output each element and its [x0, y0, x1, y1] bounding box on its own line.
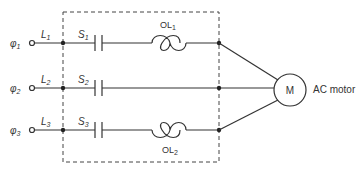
svg-text:S2: S2: [78, 74, 89, 86]
terminal-phase-2: [30, 86, 35, 91]
phase-3-line: φ3 L3 S3 OL2: [10, 100, 278, 156]
svg-text:φ2: φ2: [10, 83, 21, 95]
overload-ol2: [152, 123, 186, 138]
svg-text:OL1: OL1: [160, 20, 176, 31]
overload-ol1: [152, 36, 186, 51]
svg-text:L3: L3: [41, 116, 51, 128]
terminal-phase-3: [30, 128, 35, 133]
svg-text:φ1: φ1: [10, 38, 21, 50]
terminal-phase-1: [30, 41, 35, 46]
circuit-diagram: φ1 L1 S1 OL1 φ2 L2 S2 φ3 L3 S3: [0, 0, 363, 175]
svg-text:AC motor: AC motor: [313, 84, 356, 95]
node: [61, 41, 65, 45]
svg-text:M: M: [286, 85, 294, 96]
svg-text:S1: S1: [78, 29, 89, 41]
phase-2-line: φ2 L2 S2: [10, 74, 274, 96]
phase-1-line: φ1 L1 S1 OL1: [10, 20, 278, 80]
svg-text:L2: L2: [41, 74, 51, 86]
svg-text:φ3: φ3: [10, 125, 21, 137]
svg-text:OL2: OL2: [162, 145, 178, 156]
svg-text:L1: L1: [41, 29, 51, 41]
ac-motor: M AC motor: [274, 74, 356, 106]
svg-text:S3: S3: [78, 116, 89, 128]
